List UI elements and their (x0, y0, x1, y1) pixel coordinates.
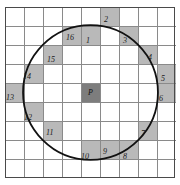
pixel-label-9: 9 (103, 148, 107, 156)
pixel-label-7: 7 (141, 130, 145, 138)
pixel-label-4: 4 (148, 54, 152, 62)
pixel-label-12: 12 (24, 114, 32, 122)
pixel-label-6: 6 (159, 95, 163, 103)
pixel-label-15: 15 (47, 56, 55, 64)
pixel-label-5: 5 (161, 75, 165, 83)
pixel-label-13: 13 (6, 94, 14, 102)
pixel-label-14: 14 (23, 73, 31, 81)
pixel-label-3: 3 (123, 37, 127, 45)
pixel-label-10: 10 (81, 153, 89, 161)
pixel-label-16: 16 (66, 34, 74, 42)
circle-raster-figure: 12345678910111213141516P (0, 0, 180, 185)
pixel-label-2: 2 (104, 16, 108, 24)
pixel-label-1: 1 (86, 37, 90, 45)
center-point-label: P (88, 89, 93, 97)
pixel-label-8: 8 (123, 153, 127, 161)
pixel-grid: 12345678910111213141516P (5, 7, 175, 178)
pixel-label-11: 11 (46, 129, 53, 137)
